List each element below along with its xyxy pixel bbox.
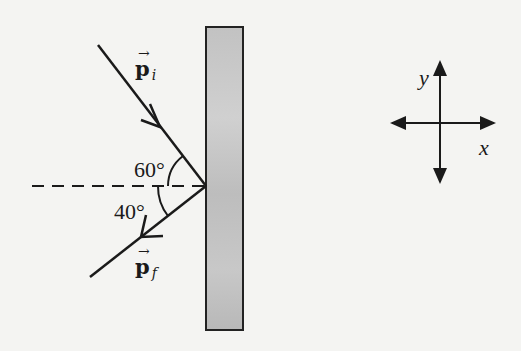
coordinate-axes [390, 60, 496, 184]
wall [206, 27, 243, 330]
angle-label-40: 40° [114, 201, 145, 223]
reflected-momentum-label: → pf [135, 256, 157, 280]
y-axis-up-arrow-icon [433, 60, 447, 76]
incident-momentum-label: → pi [135, 58, 156, 82]
x-axis-right-arrow-icon [480, 116, 496, 130]
angle-arc-40 [158, 186, 168, 216]
angle-label-60: 60° [134, 159, 165, 181]
angle-arc-60 [168, 156, 183, 186]
x-axis-left-arrow-icon [390, 116, 406, 130]
y-axis-down-arrow-icon [433, 168, 447, 184]
y-axis-label: y [419, 67, 429, 89]
momentum-reflection-diagram [0, 0, 521, 351]
x-axis-label: x [479, 137, 489, 159]
